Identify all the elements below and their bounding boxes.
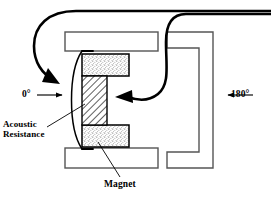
magnet-label: Magnet xyxy=(104,179,136,190)
acoustic-resistance-label-line2: Resistance xyxy=(3,129,45,139)
front-sound-entry-arrowhead xyxy=(42,68,60,84)
diagram-root: 0° 180° AcousticResistance Magnet xyxy=(0,0,271,198)
bottom-pole-plate xyxy=(65,148,158,168)
hatched-diaphragm-core xyxy=(82,76,107,125)
acoustic-resistance-leader-line xyxy=(47,104,85,127)
angle-label-front: 0° xyxy=(22,89,31,100)
upper-magnet-block xyxy=(82,54,129,76)
top-pole-plate xyxy=(65,32,158,51)
angle-label-rear: 180° xyxy=(231,89,249,100)
rear-sound-entry-arrowhead xyxy=(115,90,133,103)
rear-c-bracket-housing xyxy=(167,32,213,168)
acoustic-resistance-label: AcousticResistance xyxy=(3,119,45,139)
acoustic-resistance-screen xyxy=(72,51,83,149)
lower-magnet-block xyxy=(82,125,129,147)
acoustic-resistance-label-line1: Acoustic xyxy=(3,119,37,129)
